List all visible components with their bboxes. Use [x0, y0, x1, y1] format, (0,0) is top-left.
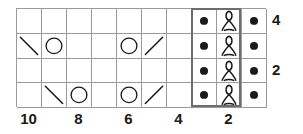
stitch-cell	[217, 9, 242, 34]
stitch-cell	[67, 83, 92, 108]
stitch-cell	[17, 83, 42, 108]
stitch-cell	[42, 83, 67, 108]
stitch-cell	[217, 34, 242, 59]
stitch-cell	[192, 9, 217, 34]
stitch-cell	[167, 9, 192, 34]
column-label-6: 6	[116, 109, 141, 129]
stitch-cell	[142, 9, 167, 34]
purl-stitch-dot-icon	[242, 59, 266, 83]
stitch-cell	[217, 59, 242, 84]
purl-stitch-dot-icon	[192, 9, 216, 33]
stitch-cell	[242, 83, 267, 108]
stitch-cell	[142, 59, 167, 84]
purl-stitch-dot-icon	[192, 83, 216, 107]
stitch-cell	[192, 83, 217, 108]
yarn-over-circle-icon	[67, 83, 91, 107]
stitch-cell	[192, 59, 217, 84]
purl-stitch-dot-icon	[192, 34, 216, 58]
stitch-grid	[16, 8, 266, 107]
stitch-cell	[92, 34, 117, 59]
purl-stitch-dot-icon	[242, 9, 266, 33]
stitch-cell	[117, 83, 142, 108]
twisted-stitch-icon	[217, 59, 241, 83]
stitch-cell	[92, 59, 117, 84]
stitch-cell	[242, 9, 267, 34]
column-label-10: 10	[16, 109, 41, 129]
stitch-cell	[142, 34, 167, 59]
twisted-stitch-icon	[217, 34, 241, 58]
stitch-cell	[17, 9, 42, 34]
purl-stitch-dot-icon	[192, 59, 216, 83]
stitch-cell	[42, 9, 67, 34]
knitting-stitch-chart: 108642 42	[0, 0, 303, 134]
purl-stitch-dot-icon	[242, 34, 266, 58]
column-label-2: 2	[216, 109, 241, 129]
stitch-cell	[117, 9, 142, 34]
yarn-over-circle-icon	[117, 34, 141, 58]
stitch-cell	[92, 83, 117, 108]
stitch-cell	[217, 83, 242, 108]
left-leaning-decrease-icon	[42, 83, 66, 107]
column-label-8: 8	[66, 109, 91, 129]
stitch-cell	[42, 34, 67, 59]
column-label-4: 4	[166, 109, 191, 129]
yarn-over-circle-icon	[42, 34, 66, 58]
stitch-cell	[167, 59, 192, 84]
left-leaning-decrease-icon	[17, 34, 41, 58]
stitch-cell	[42, 59, 67, 84]
twisted-stitch-icon	[217, 9, 241, 33]
stitch-cell	[242, 34, 267, 59]
stitch-cell	[117, 34, 142, 59]
twisted-stitch-icon	[217, 83, 241, 107]
stitch-cell	[92, 9, 117, 34]
right-leaning-decrease-icon	[142, 83, 166, 107]
stitch-cell	[167, 83, 192, 108]
right-leaning-decrease-icon	[142, 34, 166, 58]
stitch-cell	[192, 34, 217, 59]
row-label-2: 2	[272, 60, 292, 80]
stitch-cell	[167, 34, 192, 59]
stitch-cell	[117, 59, 142, 84]
purl-stitch-dot-icon	[242, 83, 266, 107]
stitch-cell	[67, 34, 92, 59]
stitch-cell	[67, 59, 92, 84]
yarn-over-circle-icon	[117, 83, 141, 107]
stitch-cell	[17, 34, 42, 59]
row-label-4: 4	[272, 10, 292, 30]
stitch-cell	[242, 59, 267, 84]
stitch-cell	[67, 9, 92, 34]
stitch-cell	[17, 59, 42, 84]
stitch-cell	[142, 83, 167, 108]
